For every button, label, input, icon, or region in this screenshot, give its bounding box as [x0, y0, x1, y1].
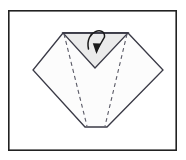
origami-figure-panel	[0, 0, 186, 160]
origami-diagram-svg	[0, 0, 186, 160]
